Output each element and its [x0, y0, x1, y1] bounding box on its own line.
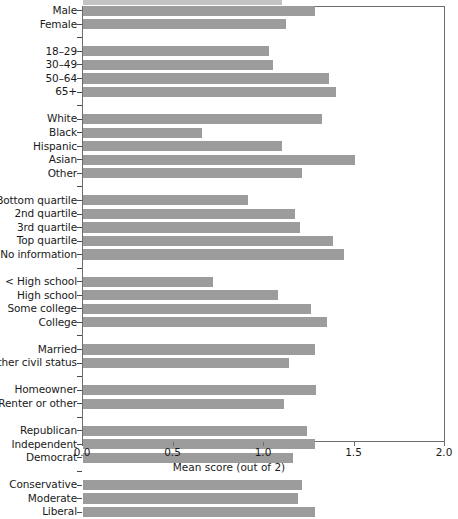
axis-tick [77, 485, 82, 486]
axis-tick [77, 376, 82, 377]
axis-tick [77, 308, 82, 309]
axis-tick [77, 254, 82, 255]
axis-tick [77, 119, 82, 120]
axis-tick [77, 105, 82, 106]
x-tick-label: 0.0 [74, 446, 91, 458]
bar [83, 344, 315, 354]
bar [83, 277, 213, 287]
category-label: 18–29 [46, 45, 77, 59]
category-label: Moderate [28, 492, 77, 506]
category-label: High school [17, 289, 77, 303]
category-label: 2nd quartile [14, 207, 77, 221]
bar [83, 480, 302, 490]
bar-row: Some college [0, 302, 458, 316]
bar-row: Homeowner [0, 383, 458, 397]
category-label: Male [53, 4, 77, 18]
axis-tick [77, 335, 82, 336]
axis-tick [77, 295, 82, 296]
axis-tick [77, 200, 82, 201]
category-label: 50–64 [46, 72, 77, 86]
axis-tick [77, 37, 82, 38]
axis-tick [77, 24, 82, 25]
bar [83, 317, 327, 327]
group-spacer [0, 329, 458, 343]
bar-row: Other [0, 167, 458, 181]
axis-tick [77, 132, 82, 133]
axis-tick [77, 186, 82, 187]
x-tick-mark [173, 442, 174, 446]
bar [83, 155, 355, 165]
axis-tick [77, 268, 82, 269]
bar [83, 249, 344, 259]
category-label: Married [38, 343, 77, 357]
bar [83, 304, 311, 314]
category-label: Other civil status [0, 356, 77, 370]
category-label: 65+ [55, 85, 77, 99]
category-label: Some college [7, 302, 77, 316]
axis-tick [77, 241, 82, 242]
x-axis-tick-labels: 0.00.51.01.52.0 [0, 446, 458, 460]
category-label: Hispanic [33, 140, 77, 154]
category-label: Conservative [9, 478, 77, 492]
group-spacer [0, 261, 458, 275]
axis-tick [77, 417, 82, 418]
group-spacer [0, 370, 458, 384]
x-tick-label: 1.5 [345, 446, 362, 458]
bar [83, 128, 202, 138]
bar-row: Moderate [0, 492, 458, 506]
bar [83, 60, 273, 70]
bar [83, 141, 282, 151]
x-tick-label: 2.0 [436, 446, 453, 458]
bar-row: Top quartile [0, 234, 458, 248]
axis-tick [77, 51, 82, 52]
category-label: College [39, 316, 77, 330]
axis-tick [77, 227, 82, 228]
bar-row: Hispanic [0, 140, 458, 154]
bar [83, 114, 322, 124]
bar [83, 493, 298, 503]
group-spacer [0, 31, 458, 45]
bar-row: Asian [0, 153, 458, 167]
x-tick-mark [82, 442, 83, 446]
bar-row: < High school [0, 275, 458, 289]
group-spacer [0, 180, 458, 194]
category-label: White [47, 112, 77, 126]
bar-row: Married [0, 343, 458, 357]
bar-row: Liberal [0, 505, 458, 519]
bar-row: Black [0, 126, 458, 140]
bar [83, 195, 248, 205]
bar-row: 3rd quartile [0, 221, 458, 235]
bar-row: Republican [0, 424, 458, 438]
bar [83, 209, 295, 219]
bar-row: 50–64 [0, 72, 458, 86]
bar [83, 87, 336, 97]
bar-row: No information [0, 248, 458, 262]
axis-tick [77, 92, 82, 93]
category-label: No information [0, 248, 77, 262]
axis-tick [77, 363, 82, 364]
category-label: Homeowner [14, 383, 77, 397]
bar-row: White [0, 112, 458, 126]
axis-tick [77, 10, 82, 11]
category-label: Female [40, 18, 77, 32]
bar-row: 18–29 [0, 45, 458, 59]
bar [83, 236, 333, 246]
axis-tick [77, 78, 82, 79]
bar-row: Bottom quartile [0, 194, 458, 208]
bar [83, 19, 286, 29]
bar-row: Female [0, 18, 458, 32]
category-label: 3rd quartile [17, 221, 77, 235]
axis-tick [77, 214, 82, 215]
category-label: Asian [49, 153, 77, 167]
bar [83, 426, 307, 436]
category-label: Top quartile [17, 234, 77, 248]
axis-tick [77, 64, 82, 65]
bar [83, 399, 284, 409]
bar [83, 507, 315, 517]
category-label: Black [49, 126, 77, 140]
x-tick-mark [444, 442, 445, 446]
bar-row: Conservative [0, 478, 458, 492]
axis-tick [77, 322, 82, 323]
x-tick-label: 1.0 [255, 446, 272, 458]
